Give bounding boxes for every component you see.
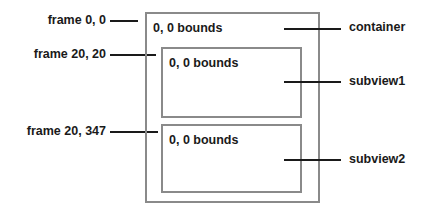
- name-leader-subview1: [284, 81, 341, 83]
- frame-label-subview1: frame 20, 20: [0, 47, 106, 61]
- name-leader-subview2: [284, 159, 341, 161]
- subview1-bounds-label: 0, 0 bounds: [169, 56, 238, 70]
- subview2-bounds-label: 0, 0 bounds: [169, 133, 238, 147]
- name-label-subview1: subview1: [349, 74, 405, 88]
- frame-label-container: frame 0, 0: [0, 13, 106, 27]
- name-leader-container: [284, 28, 341, 30]
- frame-label-subview2: frame 20, 347: [0, 124, 106, 138]
- frame-leader-container: [110, 20, 138, 22]
- name-label-subview2: subview2: [349, 152, 405, 166]
- container-bounds-label: 0, 0 bounds: [153, 21, 222, 35]
- name-label-container: container: [349, 20, 405, 34]
